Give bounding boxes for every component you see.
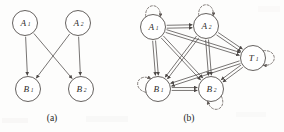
node-subscript: 1 <box>161 87 164 93</box>
edge-a1-to-b1 <box>156 41 159 76</box>
node-a2[interactable]: A2 <box>66 11 91 36</box>
node-subscript: 2 <box>209 24 212 30</box>
node-label: A <box>20 18 27 28</box>
node-label: B <box>24 84 30 94</box>
node-b1[interactable]: B1 <box>146 77 171 102</box>
node-subscript: 2 <box>81 21 84 27</box>
node-a1[interactable]: A1 <box>141 15 166 40</box>
caption-panel-a: (a) <box>47 113 58 124</box>
node-b2[interactable]: B2 <box>199 77 224 102</box>
edge-a1-to-b2 <box>161 38 200 80</box>
node-label: T <box>249 53 255 63</box>
node-label: B <box>77 84 83 94</box>
caption-panel-b: (b) <box>183 113 194 124</box>
edge-a2-to-b1 <box>36 34 69 78</box>
panel-a: A1A2B1B2 <box>13 11 94 102</box>
node-subscript: 1 <box>31 87 34 93</box>
node-label: A <box>148 22 155 32</box>
edge-a1-to-b1 <box>26 37 28 76</box>
panel-b: A1A2T1B1B2 <box>138 5 275 110</box>
node-subscript: 1 <box>156 25 159 31</box>
node-a2[interactable]: A2 <box>194 14 219 39</box>
edge-a1-to-b1 <box>153 41 156 76</box>
node-b2[interactable]: B2 <box>69 77 94 102</box>
node-t1[interactable]: T1 <box>241 46 266 71</box>
graph-canvas: A1A2B1B2 A1A2T1B1B2 (a)(b) <box>0 0 284 132</box>
node-label: A <box>73 18 80 28</box>
node-a1[interactable]: A1 <box>13 11 38 36</box>
caption-layer: (a)(b) <box>47 113 195 124</box>
node-b1[interactable]: B1 <box>16 77 41 102</box>
node-label: B <box>207 84 213 94</box>
node-label: B <box>154 84 160 94</box>
edge-t1-to-b2 <box>221 65 241 80</box>
figure-container: A1A2B1B2 A1A2T1B1B2 (a)(b) <box>0 0 284 132</box>
node-subscript: 2 <box>84 87 87 93</box>
node-subscript: 1 <box>28 21 31 27</box>
node-label: A <box>201 21 208 31</box>
edge-t1-to-b2 <box>223 67 243 82</box>
edge-a2-to-b2 <box>79 37 81 76</box>
node-subscript: 1 <box>256 56 259 62</box>
node-subscript: 2 <box>214 87 217 93</box>
